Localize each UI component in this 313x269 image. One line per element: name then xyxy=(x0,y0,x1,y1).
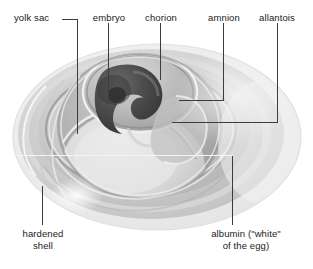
label-amnion: amnion xyxy=(208,12,240,24)
amniotic-egg-figure: yolk sac embryo chorion amnion allantois… xyxy=(0,0,313,269)
embryo-head-shadow xyxy=(97,75,131,105)
label-hardened-shell-line2: shell xyxy=(23,240,64,252)
label-yolk-sac: yolk sac xyxy=(14,12,49,24)
label-albumin-line2: of the egg) xyxy=(211,240,281,252)
lower-left-highlight xyxy=(48,178,104,214)
label-hardened-shell: hardened shell xyxy=(23,228,64,251)
egg-body xyxy=(13,44,310,230)
label-albumin-line1: albumin ("white" xyxy=(211,228,281,240)
label-embryo: embryo xyxy=(93,12,125,24)
label-hardened-shell-line1: hardened xyxy=(23,228,64,240)
right-shell-glow xyxy=(218,80,310,204)
label-albumin: albumin ("white" of the egg) xyxy=(211,228,281,251)
label-allantois: allantois xyxy=(259,12,295,24)
label-chorion: chorion xyxy=(145,12,177,24)
